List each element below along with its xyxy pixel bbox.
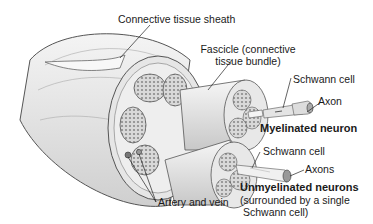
label-axons: Axons — [305, 163, 334, 175]
label-artery-and-vein: Artery and vein — [158, 196, 229, 208]
label-myelinated-neuron: Myelinated neuron — [260, 122, 357, 134]
label-unmyelinated-note-line2: Schwann cell) — [243, 206, 308, 218]
label-fascicle: Fascicle (connective tissue bundle) — [193, 43, 303, 67]
label-unmyelinated-note-line1: (surrounded by a single — [240, 194, 350, 206]
label-unmyelinated-neurons: Unmyelinated neurons — [240, 181, 359, 193]
vein — [136, 149, 141, 154]
label-schwann-cell-unmyelinated: Schwann cell — [263, 145, 325, 157]
label-fascicle-line2: tissue bundle) — [193, 55, 303, 67]
label-axon: Axon — [318, 95, 342, 107]
label-connective-tissue-sheath: Connective tissue sheath — [118, 13, 235, 25]
label-fascicle-line1: Fascicle (connective — [193, 43, 303, 55]
nerve-diagram: Connective tissue sheath Fascicle (conne… — [0, 0, 373, 224]
label-schwann-cell-myelinated: Schwann cell — [293, 73, 355, 85]
